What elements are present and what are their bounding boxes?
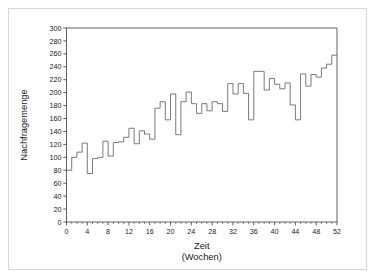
y-axis-tick-label: 280 (50, 37, 62, 46)
x-axis-tick-label: 20 (167, 227, 175, 236)
y-axis-title: Nachfragemenge (19, 89, 29, 160)
x-axis-tick-label: 0 (65, 227, 69, 236)
x-axis-tick-label: 36 (250, 227, 258, 236)
figure-canvas: 0204060801001201401601802002202402602803… (0, 0, 377, 279)
x-axis-title-unit: (Wochen) (182, 252, 222, 262)
x-axis-tick-label: 52 (333, 227, 341, 236)
x-axis-tick-label: 44 (291, 227, 299, 236)
y-axis-tick-label: 160 (50, 114, 62, 123)
x-axis-tick-label: 48 (312, 227, 320, 236)
y-axis-tick-label: 200 (50, 88, 62, 97)
x-axis-tick-label: 4 (85, 227, 89, 236)
x-axis-tick-label: 40 (271, 227, 279, 236)
y-axis-tick-label: 40 (54, 192, 62, 201)
y-axis-tick-label: 60 (54, 179, 62, 188)
x-axis-tick-label: 32 (229, 227, 237, 236)
y-axis: 0204060801001201401601802002202402602803… (50, 24, 67, 227)
axes-frame (67, 28, 338, 222)
y-axis-tick-label: 140 (50, 127, 62, 136)
y-axis-tick-label: 120 (50, 140, 62, 149)
x-axis: 0481216202428323640444852 (65, 222, 342, 236)
y-axis-tick-label: 0 (58, 218, 62, 227)
y-axis-tick-label: 100 (50, 153, 62, 162)
y-axis-tick-label: 80 (54, 166, 62, 175)
y-axis-tick-label: 220 (50, 75, 62, 84)
y-axis-tick-label: 300 (50, 24, 62, 33)
x-axis-tick-label: 24 (187, 227, 195, 236)
x-axis-tick-label: 16 (146, 227, 154, 236)
demand-step-series (67, 55, 338, 173)
y-axis-tick-label: 260 (50, 49, 62, 58)
y-axis-tick-label: 20 (54, 205, 62, 214)
y-axis-tick-label: 240 (50, 62, 62, 71)
x-axis-tick-label: 28 (208, 227, 216, 236)
x-axis-tick-label: 12 (125, 227, 133, 236)
step-chart: 0204060801001201401601802002202402602803… (0, 0, 377, 279)
x-axis-title: Zeit (194, 241, 210, 251)
y-axis-tick-label: 180 (50, 101, 62, 110)
x-axis-tick-label: 8 (106, 227, 110, 236)
